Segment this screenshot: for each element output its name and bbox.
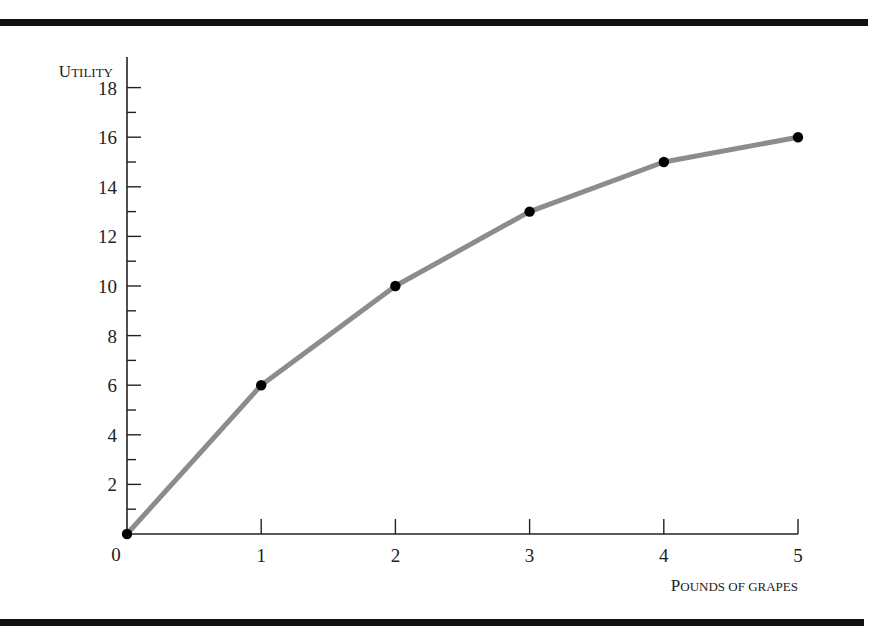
y-tick-label: 16 [98,127,117,148]
x-tick-label: 4 [659,545,669,566]
y-tick-label: 8 [108,326,118,347]
utility-line [127,137,798,534]
x-tick-label: 2 [391,545,401,566]
origin-label: 0 [111,544,121,565]
y-tick-label: 2 [108,474,118,495]
y-tick-label: 14 [98,177,118,198]
y-axis-ticks: 24681012141618 [98,78,141,510]
x-tick-label: 5 [793,545,803,566]
axes [127,57,798,534]
x-axis-ticks: 12345 [256,519,802,566]
y-axis-title: UTILITY [59,62,114,81]
x-axis-title: POUNDS OF GRAPES [671,576,798,595]
data-point-marker [122,529,132,539]
data-point-marker [524,206,534,216]
utility-chart: 24681012141618 12345 UTILITY POUNDS OF G… [0,0,891,644]
data-point-marker [793,132,803,142]
x-tick-label: 3 [525,545,535,566]
y-tick-label: 12 [98,226,117,247]
x-tick-label: 1 [256,545,266,566]
y-tick-label: 4 [108,425,118,446]
utility-series [122,132,803,539]
y-tick-label: 18 [98,78,117,99]
y-tick-label: 10 [98,276,117,297]
y-tick-label: 6 [108,375,118,396]
data-point-marker [390,281,400,291]
data-point-marker [659,157,669,167]
data-point-marker [256,380,266,390]
